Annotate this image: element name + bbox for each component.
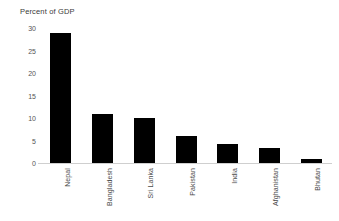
x-tick-label: Nepal	[64, 168, 71, 187]
plot-area	[40, 28, 332, 163]
chart-title: Percent of GDP	[20, 7, 75, 16]
bar	[134, 118, 155, 163]
bar	[92, 114, 113, 164]
y-tick-label: 15	[0, 92, 36, 99]
x-axis-line	[38, 163, 332, 164]
bar	[50, 33, 71, 164]
bar	[217, 144, 238, 163]
x-tick-label: India	[231, 168, 238, 184]
x-tick-label: Bangladesh	[106, 168, 113, 206]
y-tick-label: 0	[0, 160, 36, 167]
bar	[301, 159, 322, 164]
y-tick-label: 5	[0, 137, 36, 144]
bar	[259, 148, 280, 163]
y-tick-label: 10	[0, 115, 36, 122]
y-axis: 051015202530	[0, 24, 36, 168]
x-tick-label: Sri Lanka	[147, 168, 154, 198]
bar	[176, 136, 197, 163]
y-tick-label: 20	[0, 70, 36, 77]
x-tick-label: Pakistan	[189, 168, 196, 196]
y-tick-label: 25	[0, 47, 36, 54]
x-tick-label: Bhutan	[314, 168, 321, 191]
bar-chart: Percent of GDP 051015202530 NepalBanglad…	[0, 0, 339, 221]
x-tick-label: Afghanistan	[272, 168, 279, 206]
y-tick-label: 30	[0, 25, 36, 32]
